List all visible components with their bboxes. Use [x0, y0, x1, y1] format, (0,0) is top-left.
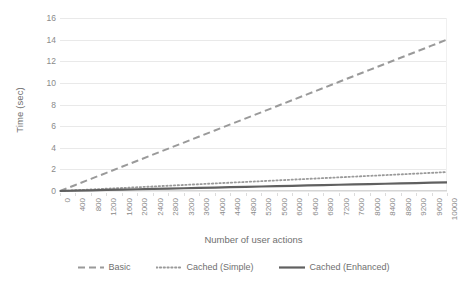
x-axis-tick-label: 400 [79, 198, 87, 211]
series-line-cached-simple [60, 172, 447, 191]
chart-container: Time (sec) 0246810121416 040080012001600… [0, 0, 468, 294]
x-axis-tick-mark [168, 193, 169, 196]
y-axis-tick-label: 10 [30, 79, 56, 87]
x-axis-tick-labels: 0400800120016002000240028003200360040004… [60, 193, 447, 233]
y-axis-tick-label: 0 [30, 187, 56, 195]
x-axis-tick-mark [122, 193, 123, 196]
plot-area [60, 18, 447, 191]
x-axis-tick-mark [370, 193, 371, 196]
x-axis-tick-label: 9600 [436, 198, 444, 216]
series-line-cached-enhanced [60, 182, 447, 191]
gridline [60, 191, 447, 192]
x-axis-tick-label: 2000 [141, 198, 149, 216]
series-line-basic [60, 40, 447, 191]
legend-swatch-dotted [156, 263, 182, 272]
x-axis-tick-label: 8400 [389, 198, 397, 216]
x-axis-tick-label: 4000 [219, 198, 227, 216]
x-axis-tick-mark [199, 193, 200, 196]
x-axis-tick-label: 1200 [110, 198, 118, 216]
legend-label: Cached (Enhanced) [309, 262, 389, 272]
x-axis-tick-mark [137, 193, 138, 196]
x-axis-tick-label: 3600 [203, 198, 211, 216]
x-axis-tick-label: 5600 [281, 198, 289, 216]
x-axis-tick-mark [308, 193, 309, 196]
x-axis-tick-label: 1600 [126, 198, 134, 216]
x-axis-tick-label: 6400 [312, 198, 320, 216]
y-axis-tick-labels: 0246810121416 [30, 18, 56, 191]
x-axis-tick-mark [106, 193, 107, 196]
x-axis-tick-label: 3200 [188, 198, 196, 216]
x-axis-tick-label: 0 [64, 198, 72, 202]
x-axis-tick-mark [323, 193, 324, 196]
x-axis-tick-label: 6800 [327, 198, 335, 216]
x-axis-tick-mark [416, 193, 417, 196]
x-axis-tick-mark [153, 193, 154, 196]
x-axis-tick-mark [277, 193, 278, 196]
x-axis-tick-label: 9200 [420, 198, 428, 216]
x-axis-tick-mark [354, 193, 355, 196]
x-axis-tick-mark [184, 193, 185, 196]
x-axis-tick-label: 6000 [296, 198, 304, 216]
legend-label: Basic [108, 262, 130, 272]
legend-label: Cached (Simple) [186, 262, 253, 272]
x-axis-tick-mark [261, 193, 262, 196]
legend-swatch-solid [279, 263, 305, 272]
x-axis-tick-mark [385, 193, 386, 196]
x-axis-tick-mark [432, 193, 433, 196]
x-axis-tick-label: 4400 [234, 198, 242, 216]
x-axis-tick-label: 800 [95, 198, 103, 211]
y-axis-tick-label: 2 [30, 165, 56, 173]
x-axis-tick-mark [215, 193, 216, 196]
x-axis-title: Number of user actions [60, 234, 447, 245]
x-axis-tick-label: 7200 [343, 198, 351, 216]
y-axis-tick-label: 12 [30, 57, 56, 65]
x-axis-tick-mark [292, 193, 293, 196]
series-lines [60, 18, 447, 191]
legend-item[interactable]: Basic [78, 262, 130, 272]
legend-item[interactable]: Cached (Simple) [156, 262, 253, 272]
x-axis-tick-mark [339, 193, 340, 196]
x-axis-tick-mark [447, 193, 448, 196]
y-axis-tick-label: 16 [30, 14, 56, 22]
x-axis-tick-mark [75, 193, 76, 196]
y-axis-tick-label: 6 [30, 122, 56, 130]
x-axis-tick-mark [246, 193, 247, 196]
legend-swatch-dashed [78, 263, 104, 272]
x-axis-tick-label: 10000 [451, 198, 459, 220]
x-axis-tick-label: 5200 [265, 198, 273, 216]
y-axis-tick-label: 4 [30, 144, 56, 152]
x-axis-tick-mark [401, 193, 402, 196]
legend-item[interactable]: Cached (Enhanced) [279, 262, 389, 272]
x-axis-tick-label: 2400 [157, 198, 165, 216]
y-axis-tick-label: 14 [30, 36, 56, 44]
x-axis-tick-mark [230, 193, 231, 196]
x-axis-tick-label: 7600 [358, 198, 366, 216]
chart-legend: BasicCached (Simple)Cached (Enhanced) [0, 262, 468, 272]
x-axis-tick-mark [60, 193, 61, 196]
y-axis-title: Time (sec) [14, 60, 30, 160]
x-axis-tick-label: 4800 [250, 198, 258, 216]
y-axis-tick-label: 8 [30, 101, 56, 109]
x-axis-tick-label: 8000 [374, 198, 382, 216]
x-axis-tick-mark [91, 193, 92, 196]
x-axis-tick-label: 8800 [405, 198, 413, 216]
x-axis-tick-label: 2800 [172, 198, 180, 216]
